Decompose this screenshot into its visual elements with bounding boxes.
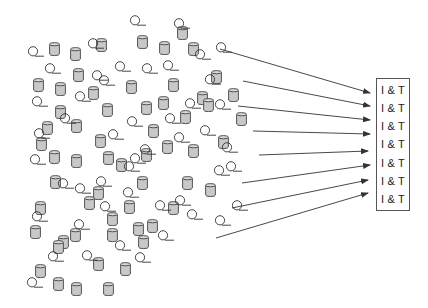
cable-coil-icon (75, 183, 91, 195)
cable-coil-icon (155, 200, 171, 212)
cable-coil-icon (75, 91, 91, 103)
storage-cylinder-icon (168, 78, 179, 92)
diagram-canvas (0, 0, 428, 308)
cable-coil-icon (96, 176, 112, 188)
cable-coil-icon (174, 132, 190, 144)
cable-coil-icon (74, 219, 90, 231)
storage-cylinder-icon (138, 235, 149, 249)
cable-coil-icon (226, 161, 242, 173)
cable-coil-icon (115, 240, 131, 252)
it-label: I & T (377, 156, 409, 170)
cable-coil-icon (34, 128, 50, 140)
cable-coil-icon (200, 125, 216, 137)
cable-coil-icon (142, 63, 158, 75)
it-label: I & T (377, 101, 409, 115)
cable-coil-icon (165, 113, 181, 125)
cable-coil-icon (100, 201, 116, 213)
storage-cylinder-icon (30, 225, 41, 239)
storage-cylinder-icon (71, 154, 82, 168)
cable-coil-icon (60, 113, 76, 125)
cable-coil-icon (216, 42, 232, 54)
cable-coil-icon (222, 142, 238, 154)
storage-cylinder-icon (124, 200, 135, 214)
cable-coil-icon (28, 46, 44, 58)
storage-cylinder-icon (120, 262, 131, 276)
cable-coil-icon (215, 215, 231, 227)
storage-cylinder-icon (158, 96, 169, 110)
cable-coil-icon (175, 195, 191, 207)
storage-cylinder-icon (182, 176, 193, 190)
cable-coil-icon (185, 98, 201, 110)
cable-coil-icon (45, 63, 61, 75)
storage-cylinder-icon (49, 42, 60, 56)
cable-coil-icon (135, 252, 151, 264)
it-label: I & T (377, 192, 409, 206)
cable-coil-icon (32, 96, 48, 108)
storage-cylinder-icon (71, 282, 82, 296)
storage-cylinder-icon (33, 78, 44, 92)
storage-cylinder-icon (73, 68, 84, 82)
cable-coil-icon (123, 187, 139, 199)
storage-cylinder-icon (107, 212, 118, 226)
storage-cylinder-icon (95, 134, 106, 148)
it-label: I & T (377, 174, 409, 188)
storage-cylinder-icon (55, 82, 66, 96)
storage-cylinder-icon (205, 183, 216, 197)
storage-cylinder-icon (148, 124, 159, 138)
cable-coil-icon (158, 230, 174, 242)
storage-cylinder-icon (141, 101, 152, 115)
cable-coil-icon (124, 161, 140, 173)
storage-cylinder-icon (35, 264, 46, 278)
cable-coil-icon (115, 61, 131, 73)
cable-coil-icon (58, 178, 74, 190)
storage-cylinder-icon (126, 80, 137, 94)
storage-cylinder-icon (162, 140, 173, 154)
integration-test-box: I & T I & T I & T I & T I & T I & T I & … (376, 78, 410, 211)
cable-coil-icon (130, 15, 146, 27)
cable-coil-icon (30, 154, 46, 166)
storage-cylinder-icon (147, 219, 158, 233)
storage-cylinder-icon (102, 103, 113, 117)
cable-coil-icon (127, 116, 143, 128)
it-label: I & T (377, 119, 409, 133)
storage-cylinder-icon (180, 110, 191, 124)
cable-coil-icon (195, 49, 211, 61)
storage-cylinder-icon (103, 151, 114, 165)
storage-cylinder-icon (159, 41, 170, 55)
storage-cylinder-icon (84, 196, 95, 210)
cable-coil-icon (232, 200, 248, 212)
cable-coil-icon (48, 251, 64, 263)
storage-cylinder-icon (49, 150, 60, 164)
cable-coil-icon (108, 129, 124, 141)
it-label: I & T (377, 137, 409, 151)
cable-coil-icon (32, 211, 48, 223)
storage-cylinder-icon (53, 277, 64, 291)
it-label: I & T (377, 83, 409, 97)
cable-coil-icon (27, 277, 43, 289)
cable-coil-icon (99, 75, 115, 87)
cable-coil-icon (174, 18, 190, 30)
storage-cylinder-icon (133, 222, 144, 236)
cable-coil-icon (215, 99, 231, 111)
storage-cylinder-icon (188, 144, 199, 158)
storage-cylinder-icon (70, 47, 81, 61)
cable-coil-icon (205, 74, 221, 86)
cable-coil-icon (187, 209, 203, 221)
storage-cylinder-icon (203, 98, 214, 112)
storage-cylinder-icon (103, 282, 114, 296)
storage-cylinder-icon (236, 112, 247, 126)
cable-coil-icon (82, 250, 98, 262)
storage-cylinder-icon (137, 35, 148, 49)
cable-coil-icon (163, 60, 179, 72)
cable-coil-icon (88, 38, 104, 50)
